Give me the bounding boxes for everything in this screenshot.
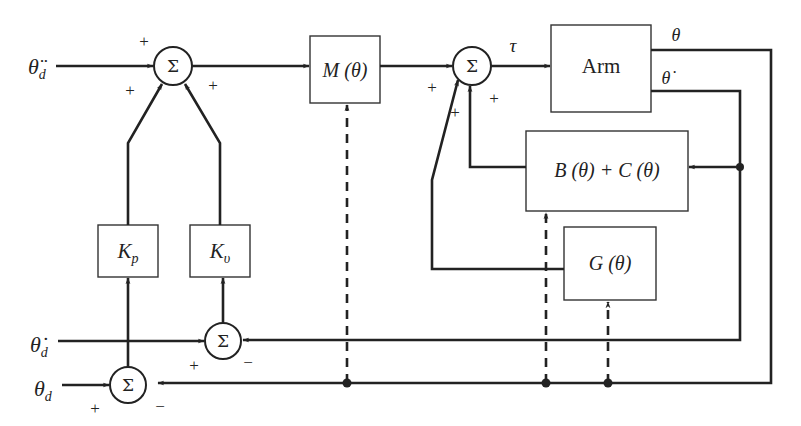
summer-2: Σ <box>453 47 491 85</box>
arm-block: Arm <box>551 25 651 112</box>
sum1-sign-left: + <box>125 81 135 100</box>
position-feedback-wire <box>158 50 771 383</box>
svg-text:Σ: Σ <box>167 56 179 76</box>
gravity-block: G (θ) <box>564 227 656 300</box>
kp-to-sum1-wire <box>128 84 162 225</box>
velocity-feedback-wire <box>243 91 740 340</box>
kp-gain-block: Kp <box>98 225 158 277</box>
sum1-sign-top: + <box>139 32 149 51</box>
svg-text:G (θ): G (θ) <box>589 252 632 275</box>
summer-3: Σ <box>205 323 241 359</box>
junction-dot-mass <box>343 379 352 388</box>
computed-torque-control-diagram: θ̈d θ̇d θd Σ + + + M (θ) Σ + + + τ Arm θ… <box>0 0 801 426</box>
summer-4: Σ <box>110 367 146 403</box>
torque-label: τ <box>510 35 518 56</box>
sum4-sign-minus: − <box>155 397 165 416</box>
sum2-sign-right: + <box>489 89 499 108</box>
sum3-sign-minus: − <box>243 353 253 372</box>
svg-text:M (θ): M (θ) <box>322 59 368 82</box>
junction-dot-coriolis <box>542 379 551 388</box>
mass-matrix-block: M (θ) <box>310 36 380 103</box>
kv-gain-block: Kυ <box>190 225 250 277</box>
sum3-sign-plus: + <box>189 356 199 375</box>
svg-text:Σ: Σ <box>466 56 478 76</box>
accel-desired-label: θ̈d <box>28 54 48 82</box>
summer-1: Σ <box>154 47 192 85</box>
sum2-sign-left: + <box>427 78 437 97</box>
svg-text:Σ: Σ <box>217 331 229 351</box>
svg-text:B (θ) + C (θ): B (θ) + C (θ) <box>554 159 660 182</box>
sum1-sign-right: + <box>208 76 218 95</box>
vel-desired-label: θ̇d <box>30 332 49 360</box>
pos-desired-label: θd <box>34 376 53 404</box>
velocity-output-label: θ̇ <box>662 68 677 88</box>
svg-text:Σ: Σ <box>122 375 134 395</box>
sum4-sign-plus: + <box>90 399 100 418</box>
coriolis-block: B (θ) + C (θ) <box>526 131 688 211</box>
position-output-label: θ <box>672 25 681 45</box>
svg-text:Arm: Arm <box>582 54 621 78</box>
junction-dot-gravity <box>604 379 613 388</box>
kv-to-sum1-wire <box>185 84 220 225</box>
